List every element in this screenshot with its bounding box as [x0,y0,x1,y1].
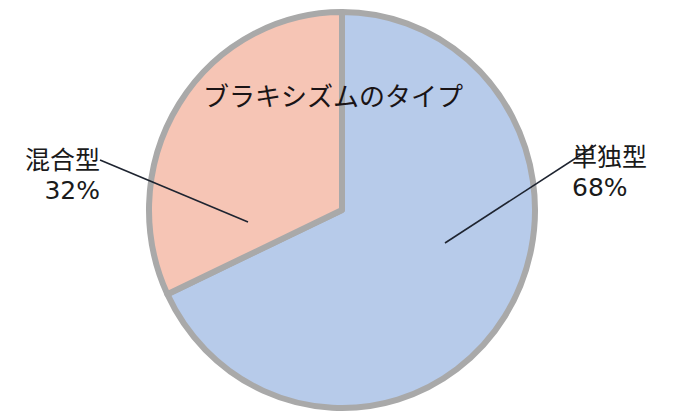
label-single-type: 単独型 68% [572,143,647,203]
label-mixed-type: 混合型 32% [12,146,100,206]
label-mixed-name: 混合型 [12,146,100,176]
pie-chart [0,0,690,418]
chart-title: ブラキシズムのタイプ [203,80,463,114]
label-single-name: 単独型 [572,143,647,173]
label-mixed-percent: 32% [12,176,100,206]
label-single-percent: 68% [572,173,647,203]
